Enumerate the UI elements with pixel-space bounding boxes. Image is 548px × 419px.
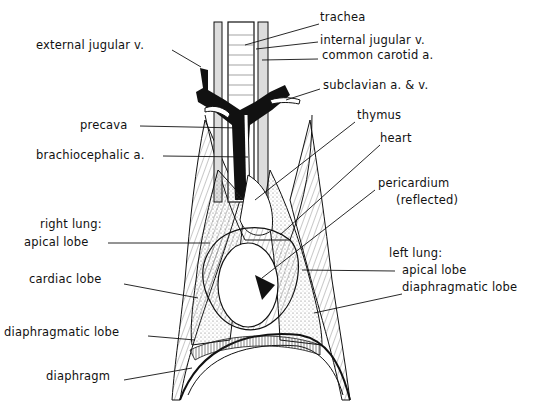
label-right-diaphragmatic-lobe: diaphragmatic lobe xyxy=(4,327,119,339)
label-right-apical-lobe: apical lobe xyxy=(24,237,89,249)
label-internal-jugular-vein: internal jugular v. xyxy=(320,35,425,47)
label-heart: heart xyxy=(380,133,412,145)
thoracic-illustration xyxy=(0,0,548,419)
label-left-lung: left lung: xyxy=(389,248,442,260)
label-pericardium-reflected: (reflected) xyxy=(396,195,458,207)
label-external-jugular-vein: external jugular v. xyxy=(36,40,144,52)
label-precava: precava xyxy=(80,120,127,132)
label-right-lung: right lung: xyxy=(40,219,102,231)
diaphragm-shape xyxy=(180,334,350,400)
label-trachea: trachea xyxy=(320,12,365,24)
label-left-diaphragmatic-lobe: diaphragmatic lobe xyxy=(402,282,517,294)
label-brachiocephalic-artery: brachiocephalic a. xyxy=(36,150,145,162)
label-subclavian-artery-vein: subclavian a. & v. xyxy=(323,80,428,92)
label-cardiac-lobe: cardiac lobe xyxy=(29,274,101,286)
label-thymus: thymus xyxy=(357,110,401,122)
label-diaphragm: diaphragm xyxy=(46,371,110,383)
label-pericardium: pericardium xyxy=(378,178,449,190)
label-common-carotid-artery: common carotid a. xyxy=(322,50,433,62)
label-left-apical-lobe: apical lobe xyxy=(402,265,467,277)
anatomy-diagram: trachea internal jugular v. common carot… xyxy=(0,0,548,419)
